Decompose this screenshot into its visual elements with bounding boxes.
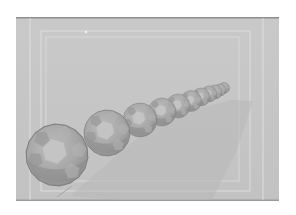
light-point (85, 31, 87, 33)
polyhedron-sphere (26, 124, 88, 186)
polyhedron-sphere (84, 110, 130, 156)
rendered-scene (0, 0, 296, 215)
